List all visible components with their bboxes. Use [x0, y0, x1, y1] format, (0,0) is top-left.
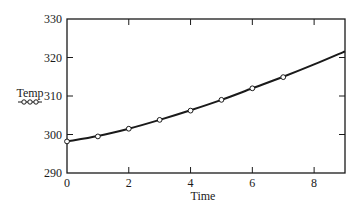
x-tick-label: 8	[311, 176, 317, 190]
data-point-marker	[219, 97, 224, 102]
x-axis-title: Time	[191, 189, 216, 203]
legend-line-circles-icon	[18, 100, 42, 104]
axis-ticks	[67, 19, 345, 173]
temp-data-markers	[65, 75, 286, 144]
data-point-marker	[188, 108, 193, 113]
y-axis-title: Temp	[16, 86, 43, 100]
data-point-marker	[65, 139, 70, 144]
y-tick-label: 300	[44, 128, 62, 142]
data-point-marker	[281, 75, 286, 80]
data-point-marker	[157, 117, 162, 122]
y-tick-label: 320	[44, 51, 62, 65]
axes-frame	[67, 19, 345, 173]
x-tick-labels: 02468	[64, 176, 317, 190]
y-tick-labels: 290300310320330	[44, 12, 62, 180]
data-point-marker	[95, 134, 100, 139]
x-tick-label: 0	[64, 176, 70, 190]
x-tick-label: 4	[188, 176, 194, 190]
y-tick-label: 330	[44, 12, 62, 26]
temperature-chart: 290300310320330 02468 Time Temp	[0, 0, 361, 210]
temp-curve-line	[67, 51, 345, 141]
y-tick-label: 310	[44, 89, 62, 103]
y-tick-label: 290	[44, 166, 62, 180]
data-point-marker	[250, 86, 255, 91]
x-tick-label: 6	[249, 176, 255, 190]
x-tick-label: 2	[126, 176, 132, 190]
data-point-marker	[126, 126, 131, 131]
